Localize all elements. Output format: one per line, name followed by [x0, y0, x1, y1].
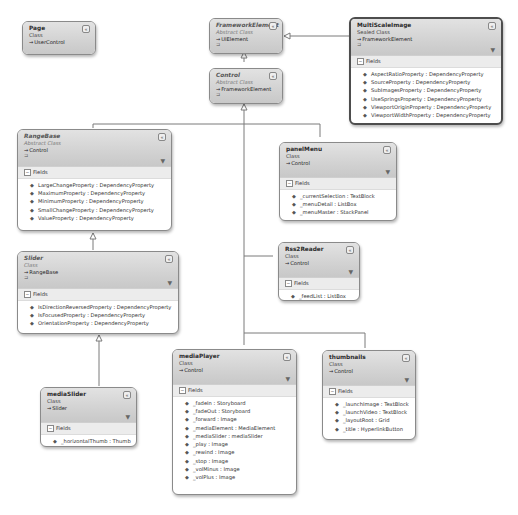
- collapse-chevron-icon[interactable]: «: [402, 354, 410, 362]
- public-field-icon: ◆: [30, 189, 38, 197]
- field-item[interactable]: ◆_menuMaster : StackPanel: [292, 208, 396, 216]
- field-item[interactable]: ◆_rewind : Image: [185, 448, 296, 456]
- class-multiscaleimage[interactable]: MultiScaleImage Sealed Class →FrameworkE…: [349, 17, 503, 125]
- collapse-chevron-icon[interactable]: «: [283, 353, 291, 361]
- field-item[interactable]: ◆_fadeIn : Storyboard: [185, 399, 296, 407]
- field-item[interactable]: ◆AspectRatioProperty : DependencyPropert…: [363, 70, 501, 78]
- private-field-icon: ◆: [185, 399, 193, 407]
- section-toggle-icon[interactable]: −: [329, 388, 336, 395]
- filter-icon[interactable]: ▼: [404, 376, 409, 383]
- private-field-icon: ◆: [185, 407, 193, 415]
- field-item[interactable]: ◆LargeChangeProperty : DependencyPropert…: [30, 181, 171, 189]
- private-field-icon: ◆: [292, 200, 300, 208]
- class-frameworkelement[interactable]: FrameworkElement Abstract Class →UIEleme…: [209, 18, 283, 54]
- field-item[interactable]: ◆ViewportWidthProperty : DependencyPrope…: [363, 111, 501, 119]
- fields-section-header[interactable]: −Fields: [280, 177, 396, 190]
- collapse-chevron-icon[interactable]: «: [123, 391, 131, 399]
- section-toggle-icon[interactable]: −: [24, 291, 31, 298]
- field-item[interactable]: ◆ViewportOriginProperty : DependencyProp…: [363, 103, 501, 111]
- field-item[interactable]: ◆_stop : Image: [185, 457, 296, 465]
- field-item[interactable]: ◆_forward : Image: [185, 415, 296, 423]
- field-item[interactable]: ◆SubImagesProperty : DependencyProperty: [363, 86, 501, 94]
- filter-icon[interactable]: ▼: [160, 157, 165, 164]
- public-field-icon: ◆: [363, 86, 371, 94]
- filter-icon[interactable]: ▼: [125, 413, 130, 420]
- field-item[interactable]: ◆_volMinus : Image: [185, 465, 296, 473]
- field-item[interactable]: ◆_currentSelection : TextBlock: [292, 192, 396, 200]
- section-toggle-icon[interactable]: −: [357, 58, 364, 65]
- expand-icon[interactable]: ⊐: [216, 92, 277, 97]
- class-base: →Control: [286, 160, 391, 167]
- private-field-icon: ◆: [185, 457, 193, 465]
- field-item[interactable]: ◆_play : Image: [185, 440, 296, 448]
- field-item[interactable]: ◆_title : HyperlinkButton: [335, 425, 415, 433]
- field-item[interactable]: ◆UseSpringsProperty : DependencyProperty: [363, 95, 501, 103]
- collapse-chevron-icon[interactable]: «: [82, 25, 90, 33]
- class-thumbnails[interactable]: thumbnails Class →Control « ▼ −Fields ◆_…: [322, 350, 416, 440]
- collapse-chevron-icon[interactable]: «: [269, 72, 277, 80]
- field-item[interactable]: ◆_horizontalThumb : Thumb: [53, 437, 136, 445]
- public-field-icon: ◆: [363, 70, 371, 78]
- fields-section-header[interactable]: −Fields: [18, 288, 178, 301]
- private-field-icon: ◆: [292, 192, 300, 200]
- class-base: →Control: [285, 260, 354, 267]
- fields-section-header[interactable]: −Fields: [351, 55, 501, 68]
- section-toggle-icon[interactable]: −: [24, 169, 31, 176]
- class-rss2reader[interactable]: Rss2Reader Class →Control « ▼ −Fields ◆_…: [278, 242, 360, 301]
- filter-icon[interactable]: ▼: [490, 46, 495, 53]
- expand-icon[interactable]: ⊐: [216, 42, 277, 47]
- expand-icon[interactable]: ⊐: [357, 42, 496, 47]
- filter-icon[interactable]: ▼: [348, 268, 353, 275]
- filter-icon[interactable]: ▼: [285, 375, 290, 382]
- class-slider[interactable]: Slider Class →RangeBase ⊐ « ▼ −Fields ◆I…: [17, 251, 179, 334]
- field-item[interactable]: ◆SourceProperty : DependencyProperty: [363, 78, 501, 86]
- field-item[interactable]: ◆_launchImage : TextBlock: [335, 400, 415, 408]
- collapse-chevron-icon[interactable]: «: [346, 246, 354, 254]
- collapse-chevron-icon[interactable]: «: [165, 255, 173, 263]
- class-rangebase[interactable]: RangeBase Abstract Class →Control ⊐ « ▼ …: [17, 129, 172, 231]
- collapse-chevron-icon[interactable]: «: [158, 133, 166, 141]
- field-item[interactable]: ◆SmallChangeProperty : DependencyPropert…: [30, 206, 171, 214]
- fields-section-header[interactable]: −Fields: [279, 277, 359, 290]
- field-item[interactable]: ◆_fadeOut : Storyboard: [185, 407, 296, 415]
- field-item[interactable]: ◆MaximumProperty : DependencyProperty: [30, 189, 171, 197]
- field-item[interactable]: ◆OrientationProperty : DependencyPropert…: [30, 319, 178, 327]
- class-control[interactable]: Control Abstract Class →FrameworkElement…: [209, 68, 283, 104]
- section-toggle-icon[interactable]: −: [47, 425, 54, 432]
- field-item[interactable]: ◆_volPlus : Image: [185, 473, 296, 481]
- class-mediaplayer[interactable]: mediaPlayer Class →Control « ▼ −Fields ◆…: [172, 349, 297, 495]
- field-list: ◆AspectRatioProperty : DependencyPropert…: [351, 68, 501, 122]
- field-item[interactable]: ◆ValueProperty : DependencyProperty: [30, 214, 171, 222]
- expand-icon[interactable]: ⊐: [24, 153, 166, 158]
- field-item[interactable]: ◆_mediaSlider : mediaSlider: [185, 432, 296, 440]
- inherits-arrow-icon: →: [286, 160, 290, 166]
- field-item[interactable]: ◆_launchVideo : TextBlock: [335, 408, 415, 416]
- filter-icon[interactable]: ▼: [385, 168, 390, 175]
- public-field-icon: ◆: [30, 214, 38, 222]
- section-toggle-icon[interactable]: −: [285, 280, 292, 287]
- field-item[interactable]: ◆IsDirectionReversedProperty : Dependenc…: [30, 303, 178, 311]
- class-panelmenu[interactable]: panelMenu Class →Control « ▼ −Fields ◆_c…: [279, 142, 397, 221]
- fields-section-header[interactable]: −Fields: [323, 385, 415, 398]
- collapse-chevron-icon[interactable]: «: [383, 146, 391, 154]
- fields-section-header[interactable]: −Fields: [18, 166, 171, 179]
- field-item[interactable]: ◆_menuDetail : ListBox: [292, 200, 396, 208]
- field-item[interactable]: ◆MinimumProperty : DependencyProperty: [30, 197, 171, 205]
- expand-icon[interactable]: ⊐: [24, 275, 173, 280]
- inherits-arrow-icon: →: [29, 39, 33, 45]
- public-field-icon: ◆: [30, 303, 38, 311]
- collapse-chevron-icon[interactable]: «: [488, 22, 496, 30]
- collapse-chevron-icon[interactable]: «: [269, 22, 277, 30]
- field-item[interactable]: ◆_feedList : ListBox: [291, 292, 359, 300]
- section-toggle-icon[interactable]: −: [286, 180, 293, 187]
- fields-section-header[interactable]: −Fields: [173, 384, 296, 397]
- section-toggle-icon[interactable]: −: [179, 387, 186, 394]
- fields-section-header[interactable]: −Fields: [41, 422, 136, 435]
- class-mediaslider[interactable]: mediaSlider Class →Slider « ▼ −Fields ◆_…: [40, 387, 137, 447]
- field-item[interactable]: ◆_layoutRoot : Grid: [335, 416, 415, 424]
- field-item[interactable]: ◆_mediaElement : MediaElement: [185, 424, 296, 432]
- filter-icon[interactable]: ▼: [167, 279, 172, 286]
- field-list: ◆LargeChangeProperty : DependencyPropert…: [18, 179, 171, 225]
- field-item[interactable]: ◆IsFocusedProperty : DependencyProperty: [30, 311, 178, 319]
- class-page[interactable]: Page Class →UserControl «: [22, 21, 96, 55]
